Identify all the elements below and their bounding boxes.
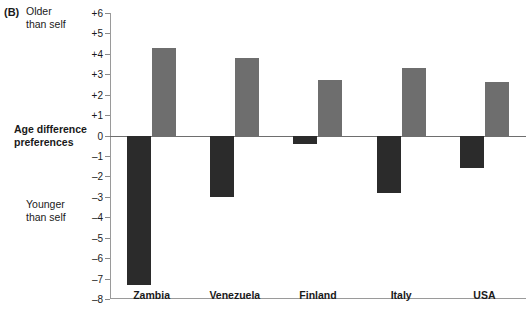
x-axis-category-label: Italy — [391, 289, 412, 301]
younger-than-self-label: Younger than self — [26, 198, 66, 223]
figure-root: (B) Older than self Age difference prefe… — [0, 0, 531, 318]
y-axis-tick — [105, 258, 110, 259]
bar — [485, 82, 509, 135]
y-axis-tick — [105, 54, 110, 55]
bar — [377, 136, 401, 193]
y-axis-tick-label: –3 — [92, 191, 103, 202]
y-axis-tick — [105, 74, 110, 75]
bar — [152, 48, 176, 136]
y-axis-tick-label: –2 — [92, 171, 103, 182]
bar — [318, 80, 342, 135]
bar-group — [443, 13, 526, 299]
x-axis-category-label: USA — [473, 289, 495, 301]
y-axis-tick-label: –5 — [92, 232, 103, 243]
x-axis-category-label: Finland — [299, 289, 336, 301]
bars-layer — [110, 13, 526, 299]
bar-group — [193, 13, 276, 299]
bar — [210, 136, 234, 197]
y-axis-tick-label: +2 — [92, 89, 103, 100]
y-axis-tick — [105, 13, 110, 14]
y-axis-tick-label: –1 — [92, 151, 103, 162]
x-axis-category-label: Zambia — [133, 289, 170, 301]
y-axis-tick — [105, 156, 110, 157]
y-axis-tick — [105, 176, 110, 177]
x-axis-category-label: Venezuela — [209, 289, 260, 301]
y-axis-tick — [105, 95, 110, 96]
y-axis-tick — [105, 197, 110, 198]
plot-area: +6+5+4+3+2+10–1–2–3–4–5–6–7–8 — [110, 13, 526, 299]
bar — [402, 68, 426, 135]
y-axis-tick — [105, 238, 110, 239]
y-axis-tick — [105, 279, 110, 280]
y-axis-tick — [105, 115, 110, 116]
y-axis-tick-label: –6 — [92, 253, 103, 264]
bar-group — [276, 13, 359, 299]
y-axis-tick-label: +6 — [92, 8, 103, 19]
y-axis-tick-label: +1 — [92, 110, 103, 121]
bar — [293, 136, 317, 144]
y-axis-tick — [105, 217, 110, 218]
y-axis-tick-label: –7 — [92, 273, 103, 284]
bar — [127, 136, 151, 285]
bar-group — [360, 13, 443, 299]
y-axis-tick-label: +3 — [92, 69, 103, 80]
y-axis-tick — [105, 136, 110, 137]
bar-group — [110, 13, 193, 299]
y-axis-tick-label: 0 — [97, 130, 103, 141]
y-axis-title: Age difference preferences — [14, 123, 94, 148]
bar — [460, 136, 484, 169]
y-axis-tick-label: +5 — [92, 28, 103, 39]
y-axis-tick — [105, 33, 110, 34]
y-axis-tick — [105, 299, 110, 300]
y-axis-tick-label: –4 — [92, 212, 103, 223]
y-axis-tick-label: +4 — [92, 48, 103, 59]
panel-letter: (B) — [4, 6, 19, 18]
bar — [235, 58, 259, 136]
y-axis-tick-label: –8 — [92, 294, 103, 305]
older-than-self-label: Older than self — [26, 5, 66, 30]
